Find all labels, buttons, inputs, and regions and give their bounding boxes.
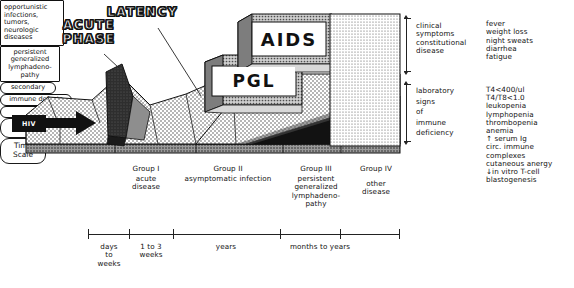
time-axis-tick [340, 229, 341, 239]
diagram-canvas: ACUTE PHASE LATENCY PGL AIDS HIV opportu… [0, 0, 574, 288]
cdc-group-2-title: Group II [176, 165, 280, 173]
hiv-entry-label: HIV [12, 115, 46, 132]
cdc-group-4-desc: other disease [348, 180, 404, 197]
bracket-arrow-down [404, 72, 408, 75]
cdc-group-3-title: Group III [286, 165, 346, 173]
pgl-block-label: PGL [213, 67, 295, 95]
laboratory-category-label: laboratory signs of immune deficiency [416, 86, 482, 139]
time-interval-3: years [196, 243, 256, 251]
time-interval-2: 1 to 3 weeks [128, 243, 174, 260]
laboratory-items-list: T4<400/ul T4/T8<1.0 leukopenia lymphopen… [486, 86, 574, 184]
cdc-group-1-desc: acute disease [118, 175, 174, 192]
time-axis-tick [173, 229, 174, 239]
time-interval-4: months to years [272, 243, 368, 251]
cdc-group-2-desc: asymptomatic infection [170, 175, 286, 183]
cdc-group-4-title: Group IV [348, 165, 404, 173]
cdc-group-1-title: Group I [118, 165, 174, 173]
time-axis-tick [88, 229, 89, 239]
acute-phase-heading: ACUTE PHASE [52, 19, 126, 46]
time-axis-tick [399, 229, 400, 239]
clinical-bracket [406, 18, 407, 72]
aids-block-label: AIDS [253, 23, 325, 55]
clinical-category-label: clinical symptoms constitutional disease [416, 22, 482, 55]
time-interval-1: days to weeks [86, 243, 132, 268]
bracket-arrow-up [404, 81, 408, 84]
acute-phase-peak-front [107, 136, 126, 146]
latency-heading: LATENCY [107, 6, 203, 19]
laboratory-bracket [406, 84, 407, 142]
bracket-arrow-up [404, 15, 408, 18]
bracket-arrow-down [404, 142, 408, 145]
time-axis-tick [129, 229, 130, 239]
cdc-group-3-desc: persistent generalized lymphadeno- pathy [284, 175, 348, 208]
time-axis-line [88, 234, 400, 235]
clinical-items-list: fever weight loss night sweats diarrhea … [486, 20, 574, 61]
time-axis-tick [280, 229, 281, 239]
aids-consequences-field [330, 14, 400, 146]
